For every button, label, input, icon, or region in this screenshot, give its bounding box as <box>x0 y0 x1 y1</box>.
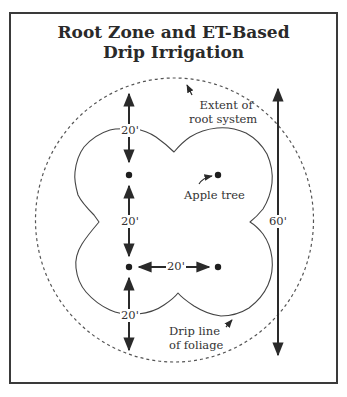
apple-tree-dot <box>126 172 132 178</box>
root-extent-leader-arrow <box>187 85 192 95</box>
root-extent-label-line-2: root system <box>189 112 257 126</box>
apple-tree-dot <box>215 264 221 270</box>
middle-spacing-label: 20' <box>120 215 140 228</box>
drip-line-label-line-1: Drip line <box>169 324 223 338</box>
drip-line-label-line-2: of foliage <box>169 338 223 352</box>
apple-tree-leader-arrow <box>199 176 212 184</box>
root-extent-label: Extent of root system <box>189 98 257 126</box>
horizontal-spacing-label: 20' <box>166 260 186 273</box>
apple-tree-dot <box>215 172 221 178</box>
top-spacing-label: 20' <box>120 124 140 137</box>
apple-tree-label: Apple tree <box>184 188 245 202</box>
apple-tree-dot <box>126 264 132 270</box>
drip-line-label: Drip line of foliage <box>169 324 223 352</box>
overall-height-label: 60' <box>268 215 288 228</box>
root-extent-label-line-1: Extent of <box>189 98 257 112</box>
bottom-spacing-label: 20' <box>120 309 140 322</box>
drip-line-leader-arrow <box>226 320 232 327</box>
foliage-drip-line <box>75 128 273 316</box>
